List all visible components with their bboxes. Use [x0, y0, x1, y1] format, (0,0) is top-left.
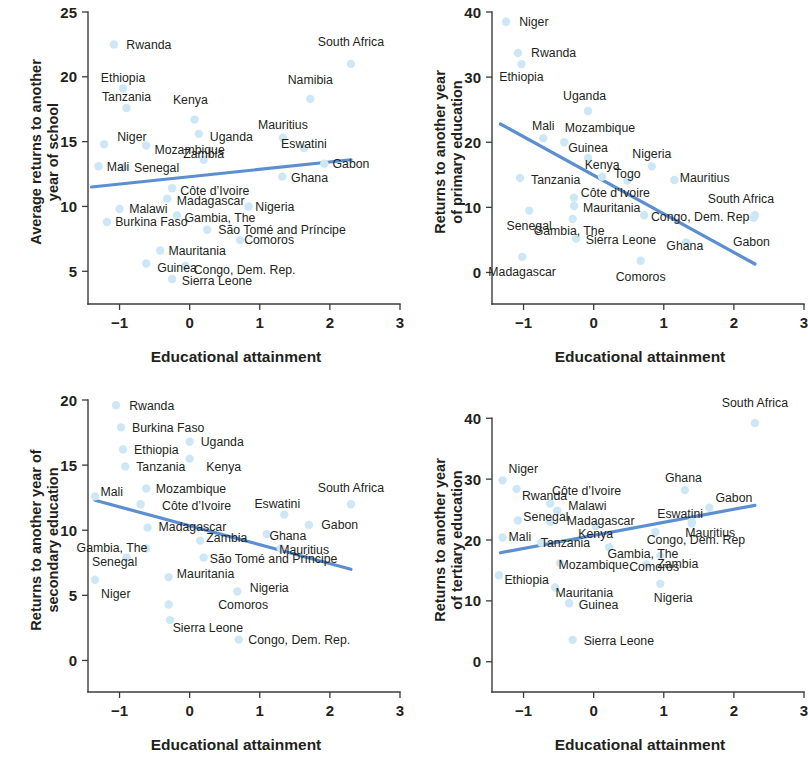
point-label: Niger [519, 15, 548, 29]
y-tick-label: 30 [464, 69, 481, 86]
y-axis-title: Returns to another yearof primary educat… [432, 70, 465, 234]
scatter-panel-top-right: 010203040−10123Educational attainmentRet… [404, 0, 808, 387]
data-point [514, 516, 522, 524]
point-label: Zambia [206, 531, 247, 545]
data-point [280, 510, 288, 518]
data-point [244, 202, 252, 210]
data-point [196, 536, 204, 544]
point-label: Eswatini [254, 497, 300, 511]
x-tick-group: −10123 [111, 692, 404, 719]
x-axis-title: Educational attainment [555, 736, 726, 753]
data-point [565, 599, 573, 607]
point-label: Ethiopia [101, 71, 146, 85]
y-axis-title-line: Returns to another year [432, 458, 448, 622]
data-point [598, 173, 606, 181]
point-label: Nigeria [255, 200, 294, 214]
point-label: Eswatini [281, 137, 327, 151]
point-label: Niger [117, 130, 146, 144]
data-point [517, 60, 525, 68]
point-label: Ethiopia [504, 573, 549, 587]
data-point [514, 49, 522, 57]
data-point [164, 573, 172, 581]
data-point [110, 40, 118, 48]
data-point [233, 587, 241, 595]
data-point [498, 533, 506, 541]
point-label: Mozambique [558, 558, 629, 572]
y-tick-label: 0 [473, 264, 481, 281]
y-axis-title-line: of primary education [449, 80, 465, 223]
point-label: Mali [100, 485, 123, 499]
data-point [112, 401, 120, 409]
point-labels: RwandaSouth AfricaEthiopiaNamibiaTanzani… [101, 35, 384, 288]
point-label: Senegal [523, 510, 568, 524]
y-tick-group: 010203040 [464, 4, 492, 281]
point-labels: South AfricaNigerGhanaRwandaCôte d’Ivoir… [504, 396, 788, 648]
data-point [168, 275, 176, 283]
y-axis-title-line: Returns to another year of [28, 449, 44, 630]
x-tick-label: 2 [730, 314, 738, 331]
point-label: Uganda [563, 89, 606, 103]
y-tick-label: 0 [473, 653, 481, 670]
point-label: Nigeria [250, 581, 289, 595]
point-label: Congo, Dem. Rep. [248, 633, 350, 647]
point-label: Mauritius [258, 118, 308, 132]
point-label: Mozambique [156, 482, 227, 496]
data-point [648, 162, 656, 170]
point-label: Rwanda [531, 46, 576, 60]
point-label: Mauritania [168, 244, 226, 258]
point-label: Uganda [201, 435, 244, 449]
point-label: Mozambique [565, 121, 636, 135]
data-point [539, 134, 547, 142]
point-label: Burkina Faso [132, 421, 205, 435]
data-point [525, 206, 533, 214]
point-label: Comoros [218, 598, 268, 612]
data-point [121, 462, 129, 470]
point-label: Gabon [332, 157, 369, 171]
x-tick-label: 1 [660, 314, 668, 331]
x-tick-group: −10123 [515, 304, 808, 331]
y-tick-label: 15 [60, 133, 77, 150]
data-point [512, 485, 520, 493]
data-point [584, 107, 592, 115]
y-tick-group: 05101520 [60, 392, 88, 669]
x-axis-title: Educational attainment [151, 348, 322, 365]
point-label: Rwanda [129, 399, 174, 413]
data-point [705, 504, 713, 512]
point-label: Ethiopia [134, 443, 179, 457]
point-label: Congo, Dem. Rep [651, 210, 750, 224]
y-axis-title-line: Average returns to another [28, 59, 44, 245]
point-label: Gabon [321, 518, 358, 532]
data-point [119, 445, 127, 453]
x-tick-label: −1 [515, 314, 532, 331]
point-label: Rwanda [126, 38, 171, 52]
y-axis-title: Returns to another yearof tertiary educa… [432, 458, 465, 622]
point-label: Sierra Leone [173, 621, 244, 635]
point-label: Sierra Leone [584, 634, 655, 648]
y-tick-label: 25 [60, 4, 77, 21]
x-tick-label: 3 [800, 702, 808, 719]
data-point [94, 162, 102, 170]
data-point [236, 236, 244, 244]
data-point [568, 215, 576, 223]
point-label: South Africa [722, 396, 788, 410]
point-label: Burkina Faso [115, 215, 188, 229]
y-tick-label: 10 [464, 199, 481, 216]
data-point [91, 492, 99, 500]
point-label: Malawi [568, 499, 606, 513]
x-tick-label: 0 [589, 314, 597, 331]
y-tick-label: 0 [69, 652, 77, 669]
point-label: Kenya [206, 460, 241, 474]
point-label: Mauritania [583, 201, 641, 215]
data-point [570, 193, 578, 201]
point-labels: NigerRwandaEthiopiaUgandaMaliMozambiqueG… [488, 15, 774, 284]
data-point [320, 159, 328, 167]
y-tick-label: 20 [464, 532, 481, 549]
data-point [185, 454, 193, 462]
data-point [656, 580, 664, 588]
x-tick-group: −10123 [111, 304, 404, 331]
data-point [142, 259, 150, 267]
data-point [498, 476, 506, 484]
y-axis-title: Average returns to anotheryear of school [28, 59, 61, 245]
y-tick-label: 10 [464, 592, 481, 609]
point-label: Ghana [291, 171, 328, 185]
